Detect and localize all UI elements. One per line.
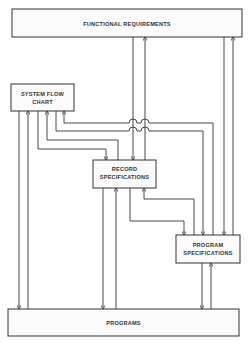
program-specifications-label-line1: PROGRAM: [193, 242, 224, 248]
node-system-flow-chart: SYSTEM FLOW CHART: [11, 84, 74, 111]
functional-requirements-label: FUNCTIONAL REQUIREMENTS: [83, 21, 171, 27]
record-specifications-label-line1: RECORD: [112, 166, 137, 172]
edge-record-to-flowchart: [47, 111, 118, 160]
node-record-specifications: RECORD SPECIFICATIONS: [93, 160, 156, 188]
node-program-specifications: PROGRAM SPECIFICATIONS: [176, 235, 240, 263]
system-flow-chart-label-line1: SYSTEM FLOW: [21, 91, 65, 97]
system-flow-chart-label-line2: CHART: [32, 99, 53, 105]
flow-diagram: FUNCTIONAL REQUIREMENTS SYSTEM FLOW CHAR…: [0, 0, 251, 346]
node-programs: PROGRAMS: [8, 309, 239, 336]
edge-flowchart-to-record: [38, 111, 106, 160]
node-functional-requirements: FUNCTIONAL REQUIREMENTS: [12, 9, 242, 37]
edge-record-to-program-spec: [130, 188, 184, 235]
record-specifications-label-line2: SPECIFICATIONS: [100, 174, 149, 180]
programs-label: PROGRAMS: [106, 320, 141, 326]
program-specifications-label-line2: SPECIFICATIONS: [183, 250, 232, 256]
edge-program-spec-to-record: [144, 188, 194, 235]
